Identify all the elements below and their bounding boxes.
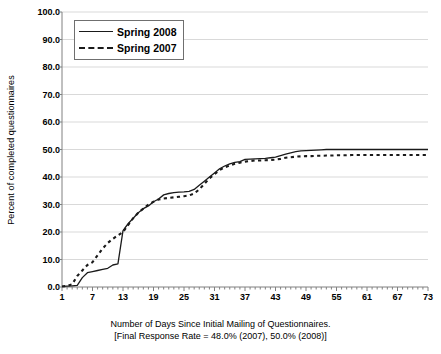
legend-item-spring-2008: Spring 2008 [79,24,177,40]
x-tick-label: 55 [324,292,350,302]
x-tick-label: 31 [202,292,228,302]
legend-swatch-dashed-icon [79,43,113,53]
legend-label-spring-2008: Spring 2008 [117,26,177,38]
x-tick-label: 25 [171,292,197,302]
data-series [62,150,428,287]
x-axis-title-line1: Number of Days Since Initial Mailing of … [0,318,441,330]
x-tick-label: 7 [80,292,106,302]
x-tick-label: 61 [354,292,380,302]
legend-label-spring-2007: Spring 2007 [117,42,177,54]
x-tick-label: 43 [263,292,289,302]
x-tick-label: 19 [141,292,167,302]
x-tick-label: 37 [232,292,258,302]
x-tick-label: 13 [110,292,136,302]
x-tick-label: 67 [385,292,411,302]
legend-swatch-solid-icon [79,27,113,37]
x-tick-label: 73 [415,292,441,302]
chart-legend: Spring 2008 Spring 2007 [74,20,184,60]
x-tick-label: 1 [49,292,75,302]
chart-container: Percent of completed questionnaires 0.01… [0,0,441,354]
x-tick-label: 49 [293,292,319,302]
x-axis-title: Number of Days Since Initial Mailing of … [0,318,441,342]
x-axis-title-line2: [Final Response Rate = 48.0% (2007), 50.… [0,330,441,342]
legend-item-spring-2007: Spring 2007 [79,40,177,56]
